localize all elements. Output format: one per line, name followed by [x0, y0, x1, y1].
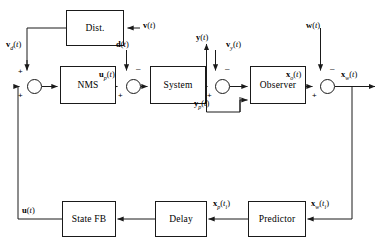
sign-input-plus-bottom: + — [18, 92, 23, 100]
signal-label-d: d(t) — [116, 40, 129, 49]
block-observer-label: Observer — [260, 80, 296, 90]
signal-label-v: v(t) — [143, 21, 155, 30]
summing-junction-output — [215, 79, 230, 94]
block-dist-label: Dist. — [85, 23, 104, 33]
control-system-block-diagram: Dist. NMS System Observer State FB Delay… — [0, 0, 382, 250]
block-state-fb[interactable]: State FB — [62, 201, 116, 237]
signal-label-vd: vd(t) — [6, 40, 21, 51]
signal-label-yp: yp(t) — [194, 99, 209, 110]
block-predictor[interactable]: Predictor — [248, 201, 306, 237]
summing-junction-state — [320, 79, 335, 94]
block-system-label: System — [163, 80, 192, 90]
block-state-fb-label: State FB — [72, 214, 107, 224]
sign-input-plus-top: + — [18, 68, 23, 76]
signal-label-vy: vy(t) — [226, 40, 241, 51]
sign-plant-minus: – — [136, 65, 140, 73]
signal-label-xp: xp(ti) — [213, 199, 230, 210]
sign-state-plus: + — [312, 92, 317, 100]
sign-output-minus: – — [225, 65, 229, 73]
block-delay-label: Delay — [169, 214, 193, 224]
summing-junction-plant-input — [126, 79, 141, 94]
block-predictor-label: Predictor — [259, 214, 296, 224]
block-delay[interactable]: Delay — [155, 201, 207, 237]
sign-state-minus: – — [330, 65, 334, 73]
signal-label-up: up(t) — [99, 70, 115, 81]
signal-label-xw-sampled: xw(ti) — [311, 199, 329, 210]
summing-junction-input — [27, 79, 42, 94]
signal-label-y: y(t) — [196, 33, 208, 42]
signal-label-xw: xw(t) — [341, 70, 357, 81]
signal-label-w: w(t) — [306, 21, 320, 30]
sign-plant-plus: + — [118, 92, 123, 100]
signal-label-u: u(t) — [22, 206, 35, 215]
signal-label-xo: xo(t) — [286, 70, 301, 81]
sign-output-plus: + — [207, 92, 212, 100]
block-nms-label: NMS — [77, 80, 98, 90]
